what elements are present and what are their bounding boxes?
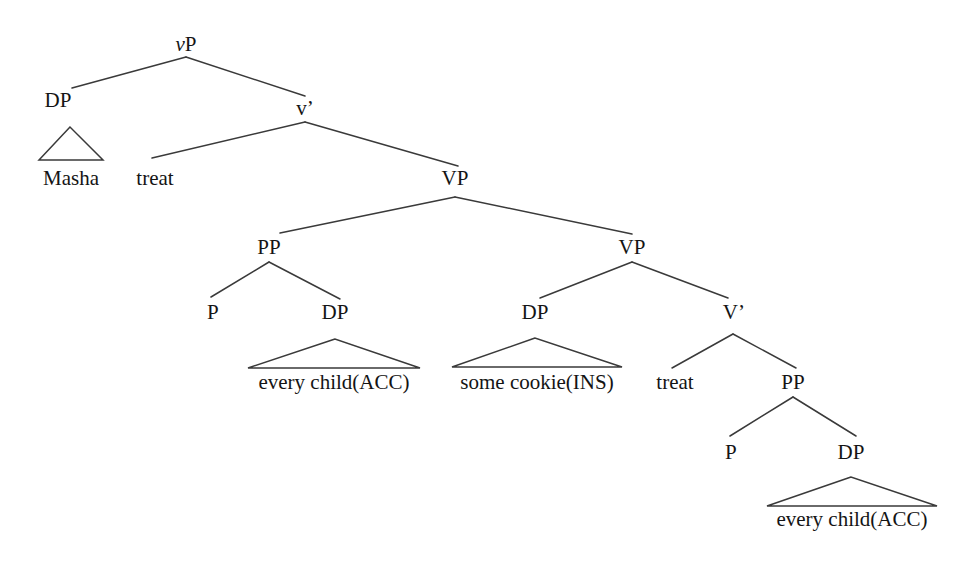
triangle-every-child-right	[767, 477, 937, 506]
edge-v-bar-upper-to-treat	[672, 334, 733, 368]
leaf-masha: Masha	[43, 168, 99, 189]
edge-vp-upper-to-vp-lower	[455, 197, 632, 234]
tree-edges-svg	[0, 0, 969, 561]
node-dp-left-object: DP	[321, 302, 348, 323]
node-vp-root-p: P	[185, 32, 197, 56]
edge-v-bar-upper-to-pp-right	[733, 334, 796, 368]
leaf-treat-lower: treat	[656, 372, 693, 393]
node-dp-right-object: DP	[837, 442, 864, 463]
edge-pp-left-to-dp	[269, 262, 340, 299]
edge-pp-right-to-p	[730, 397, 793, 436]
node-pp-right: PP	[781, 372, 805, 393]
node-p-right: P	[725, 442, 737, 463]
node-pp-left: PP	[257, 237, 281, 258]
syntax-tree-figure: vP DP v’ VP PP P DP VP DP V’ PP P DP Mas…	[0, 0, 969, 561]
edge-pp-left-to-p	[211, 262, 269, 297]
leaf-some-cookie-ins: some cookie(INS)	[460, 372, 613, 393]
node-dp-subject: DP	[44, 90, 71, 111]
node-p-left: P	[207, 302, 219, 323]
edge-v-bar-to-treat	[152, 122, 305, 158]
node-vp-upper: VP	[441, 168, 468, 189]
node-dp-instrument: DP	[521, 302, 548, 323]
node-v-bar: v’	[296, 98, 314, 119]
leaf-treat-upper: treat	[136, 168, 173, 189]
leaf-every-child-acc-left: every child(ACC)	[258, 372, 409, 393]
triangle-every-child-left	[248, 339, 420, 368]
edge-vp-to-dp-subject	[72, 57, 186, 88]
edge-vp-lower-to-dp-instrument	[540, 262, 632, 298]
triangle-some-cookie	[452, 338, 622, 367]
leaf-every-child-acc-right: every child(ACC)	[776, 509, 927, 530]
edge-pp-right-to-dp	[793, 397, 856, 436]
node-vp-lower: VP	[618, 237, 645, 258]
node-vp-root: vP	[175, 34, 196, 55]
triangle-masha	[39, 127, 103, 160]
edge-v-bar-to-vp-upper	[305, 122, 458, 166]
edge-vp-upper-to-pp-left	[280, 197, 455, 233]
edge-vp-to-v-bar	[186, 57, 305, 96]
edge-vp-lower-to-v-bar-upper	[632, 262, 728, 298]
node-v-bar-upper: V’	[723, 302, 745, 323]
